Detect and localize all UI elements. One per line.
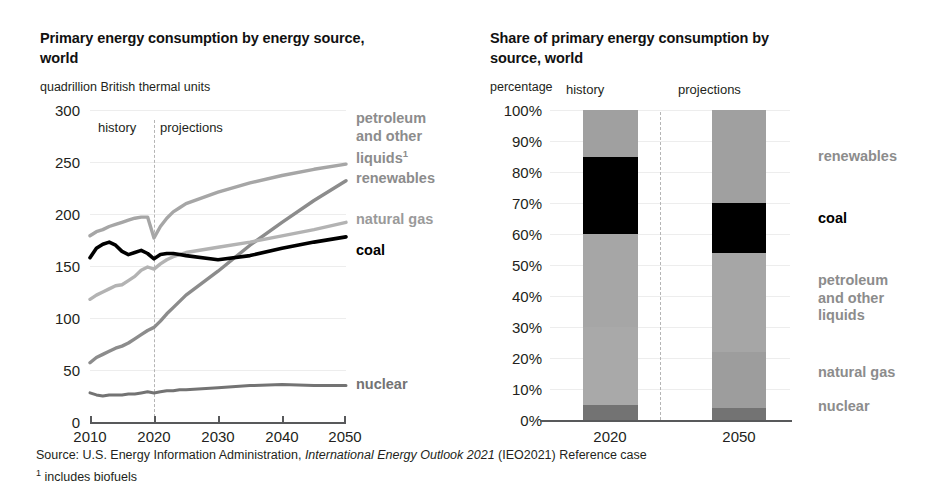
legend-label-nuclear: nuclear [818,398,870,416]
bar-segment-natural-gas [583,327,638,405]
source-publication: International Energy Outlook 2021 [305,448,495,462]
legend-label-natural-gas: natural gas [818,364,895,382]
left-plot-area: 300 250 200 150 100 50 0 history project… [0,0,478,440]
history-projection-divider [660,112,661,420]
x-axis-line [90,422,346,424]
x-axis-tick [90,416,92,422]
footnote-marker: 1 [403,148,408,159]
y-tick-label: 40% [478,288,542,305]
x-tick-label: 2010 [55,428,125,445]
projections-annotation: projections [678,82,741,97]
source-prefix: Source: U.S. Energy Information Administ… [36,448,305,462]
bar-segment-natural-gas [712,352,766,408]
x-axis-tick [218,416,220,422]
series-label-nuclear: nuclear [356,376,408,394]
y-tick-label: 90% [478,133,542,150]
legend-label-petroleum-line1: petroleum [818,272,888,288]
source-suffix: (IEO2021) Reference case [495,448,647,462]
y-tick-label: 70% [478,195,542,212]
bar-segment-petroleum [712,253,766,352]
series-label-petroleum-line2: and other [356,128,422,144]
series-label-petroleum: petroleum and other liquids1 [356,110,426,167]
series-line-petroleum [90,164,346,238]
y-tick-label: 80% [478,164,542,181]
x-axis-tick [344,416,346,422]
x-tick-label: 2050 [310,428,380,445]
history-annotation: history [566,82,604,97]
series-line-nuclear [90,385,346,396]
bar-segment-coal [712,203,766,253]
y-tick-label: 60% [478,226,542,243]
x-tick-label: 2040 [247,428,317,445]
x-tick-label: 2020 [575,428,645,445]
bar-segment-renewables [712,110,766,203]
series-label-renewables: renewables [356,170,435,188]
series-label-coal: coal [356,242,385,260]
bar-segment-petroleum [583,234,638,327]
bar-segment-coal [583,157,638,235]
y-tick-label: 30% [478,319,542,336]
legend-label-renewables: renewables [818,148,897,166]
footnote-line: 1 includes biofuels [36,468,137,484]
x-axis-line [540,420,792,422]
bar-segment-nuclear [583,405,638,421]
bar-segment-renewables [583,110,638,157]
right-chart-panel: Share of primary energy consumption by s… [478,0,940,440]
series-label-petroleum-line3: liquids [356,150,403,166]
y-tick-label: 100% [478,102,542,119]
right-plot-area: 100% 90% 80% 70% 60% 50% 40% 30% 20% 10%… [478,0,940,440]
series-label-petroleum-line1: petroleum [356,110,426,126]
x-tick-label: 2020 [119,428,189,445]
series-line-renewables [90,181,346,363]
y-tick-label: 20% [478,350,542,367]
legend-label-coal: coal [818,210,847,228]
x-axis-tick [154,416,156,422]
source-line: Source: U.S. Energy Information Administ… [36,448,647,462]
legend-label-petroleum-line3: liquids [818,307,865,323]
legend-label-petroleum-line2: and other [818,290,884,306]
legend-label-petroleum: petroleum and other liquids [818,272,888,325]
y-tick-label: 0% [478,412,542,429]
footnote-text: includes biofuels [41,470,137,484]
y-tick-label: 50% [478,257,542,274]
x-tick-label: 2050 [704,428,774,445]
x-axis-tick [282,416,284,422]
series-label-natural-gas: natural gas [356,211,433,229]
x-tick-label: 2030 [183,428,253,445]
y-tick-label: 10% [478,381,542,398]
bar-segment-nuclear [712,408,766,420]
left-chart-panel: Primary energy consumption by energy sou… [0,0,478,440]
